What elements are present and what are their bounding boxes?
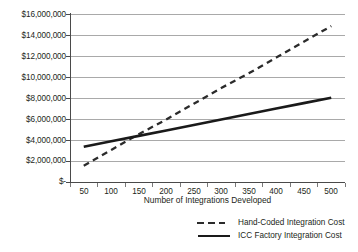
series-line-icc-factory <box>84 98 332 147</box>
legend-item-hand-coded: Hand-Coded Integration Cost <box>196 216 356 229</box>
line-chart: $16,000,000 $14,000,000 $12,000,000 $10,… <box>0 0 358 252</box>
gridlines <box>70 15 345 162</box>
chart-legend: Hand-Coded Integration Cost ICC Factory … <box>196 216 356 242</box>
legend-dashed-swatch <box>196 218 232 228</box>
legend-label: Hand-Coded Integration Cost <box>238 218 345 227</box>
legend-item-icc-factory: ICC Factory Integration Cost <box>196 229 356 242</box>
legend-solid-swatch <box>196 231 232 241</box>
x-axis-title: Number of Integrations Developed <box>70 195 345 205</box>
series-line-hand-coded <box>84 26 332 166</box>
y-tick-marks <box>66 15 70 183</box>
plot-area <box>0 0 358 252</box>
legend-label: ICC Factory Integration Cost <box>238 231 342 240</box>
